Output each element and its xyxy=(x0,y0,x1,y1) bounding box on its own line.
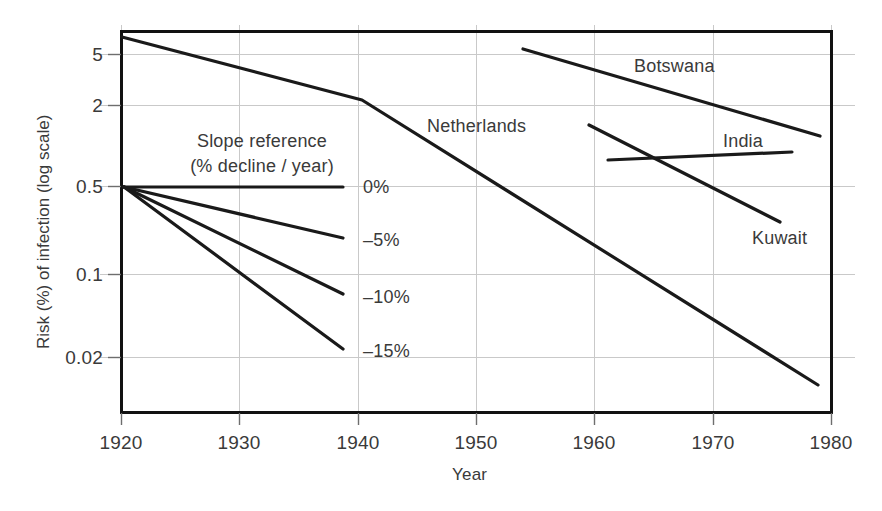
x-tick-label-1920: 1920 xyxy=(99,432,142,454)
slope-reference-label-15: –15% xyxy=(363,341,410,362)
series-line-india xyxy=(608,152,792,160)
y-tick-label-0-5: 0.5 xyxy=(48,176,103,198)
x-tick-label-1960: 1960 xyxy=(572,432,615,454)
x-tick-label-1950: 1950 xyxy=(454,432,497,454)
slope-reference-lines xyxy=(124,187,343,349)
slope-reference-label-0: 0% xyxy=(363,177,389,198)
slope-reference-label-10: –10% xyxy=(363,287,410,308)
x-tick-label-1970: 1970 xyxy=(691,432,734,454)
y-tick-label-0-02: 0.02 xyxy=(38,347,103,369)
x-tick-marks xyxy=(122,413,832,425)
x-tick-label-1930: 1930 xyxy=(217,432,260,454)
series-label-kuwait: Kuwait xyxy=(752,228,807,249)
y-tick-label-0-1: 0.1 xyxy=(48,264,103,286)
y-tick-label-2: 2 xyxy=(58,95,103,117)
slope-reference-label-5: –5% xyxy=(363,230,400,251)
chart-figure: Risk (%) of infection (log scale) 5 2 0.… xyxy=(0,0,882,511)
y-tick-marks xyxy=(108,55,121,358)
y-tick-label-5: 5 xyxy=(58,44,103,66)
x-tick-label-1980: 1980 xyxy=(809,432,852,454)
slope-reference-title-line2: (% decline / year) xyxy=(190,156,334,177)
slope-reference-title-line1: Slope reference xyxy=(197,131,327,152)
x-axis-title: Year xyxy=(452,465,487,485)
grid-vertical xyxy=(122,25,832,425)
series-label-botswana: Botswana xyxy=(634,56,715,77)
grid-horizontal xyxy=(100,55,855,358)
y-axis-title: Risk (%) of infection (log scale) xyxy=(34,115,54,349)
series-label-netherlands: Netherlands xyxy=(427,116,526,137)
x-tick-label-1940: 1940 xyxy=(336,432,379,454)
series-label-india: India xyxy=(723,131,763,152)
slope-ref-line-10 xyxy=(124,187,343,294)
